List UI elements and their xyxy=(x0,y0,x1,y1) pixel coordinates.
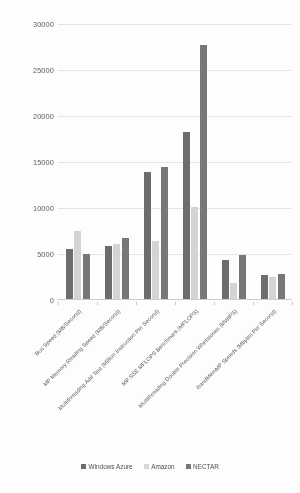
bar-groups xyxy=(58,24,292,300)
bar[interactable] xyxy=(239,255,246,300)
bar[interactable] xyxy=(269,277,276,300)
bar-group xyxy=(58,24,97,300)
legend-label: NECTAR xyxy=(193,463,219,470)
bar[interactable] xyxy=(152,241,159,300)
x-axis-tick xyxy=(97,302,98,305)
y-axis-tick-label: 30000 xyxy=(8,20,54,29)
bar[interactable] xyxy=(83,254,90,300)
bar[interactable] xyxy=(261,275,268,300)
bar-group xyxy=(97,24,136,300)
chart-legend: Windows AzureAmazonNECTAR xyxy=(0,463,300,470)
x-axis-label: MP Memory Reading Speed (MB/Second) xyxy=(41,308,120,387)
bar[interactable] xyxy=(74,231,81,300)
y-axis-tick-label: 15000 xyxy=(8,158,54,167)
bar[interactable] xyxy=(278,274,285,300)
x-axis-tick xyxy=(136,302,137,305)
x-axis-tick xyxy=(58,302,59,305)
legend-swatch-icon xyxy=(144,464,149,469)
y-axis-tick-label: 20000 xyxy=(8,112,54,121)
bar[interactable] xyxy=(105,246,112,300)
legend-swatch-icon xyxy=(81,464,86,469)
legend-swatch-icon xyxy=(186,464,191,469)
bar-group xyxy=(214,24,253,300)
plot-area xyxy=(58,24,292,300)
x-axis-tick xyxy=(292,302,293,305)
x-axis-labels: Bus Speed (MB/Second)MP Memory Reading S… xyxy=(58,302,292,452)
legend-label: Amazon xyxy=(151,463,174,470)
bar[interactable] xyxy=(183,132,190,300)
legend-item[interactable]: Windows Azure xyxy=(81,463,133,470)
bar[interactable] xyxy=(122,238,129,300)
bar-chart: 050001000015000200002500030000 Bus Speed… xyxy=(0,0,300,493)
bar[interactable] xyxy=(66,249,73,300)
bar-group xyxy=(175,24,214,300)
axis-baseline xyxy=(58,299,292,300)
y-axis-tick-label: 5000 xyxy=(8,250,54,259)
x-axis-tick xyxy=(253,302,254,305)
bar-group xyxy=(136,24,175,300)
bar[interactable] xyxy=(144,172,151,300)
y-axis-tick-label: 25000 xyxy=(8,66,54,75)
bar-group xyxy=(253,24,292,300)
bar[interactable] xyxy=(200,45,207,300)
x-axis-tick xyxy=(175,302,176,305)
bar[interactable] xyxy=(222,260,229,300)
legend-label: Windows Azure xyxy=(89,463,133,470)
bar[interactable] xyxy=(230,283,237,300)
x-axis-label: RandMemMP Speeds (Mbytes Per Second) xyxy=(194,308,276,390)
bar[interactable] xyxy=(191,207,198,300)
x-axis-tick xyxy=(214,302,215,305)
legend-item[interactable]: Amazon xyxy=(144,463,175,470)
y-axis-tick-label: 0 xyxy=(8,296,54,305)
bar[interactable] xyxy=(161,167,168,300)
x-axis-label: MP SSE MFLOPS Benchmark (MFLOPS) xyxy=(120,308,199,387)
legend-item[interactable]: NECTAR xyxy=(186,463,219,470)
bar[interactable] xyxy=(113,244,120,300)
y-axis-tick-label: 10000 xyxy=(8,204,54,213)
